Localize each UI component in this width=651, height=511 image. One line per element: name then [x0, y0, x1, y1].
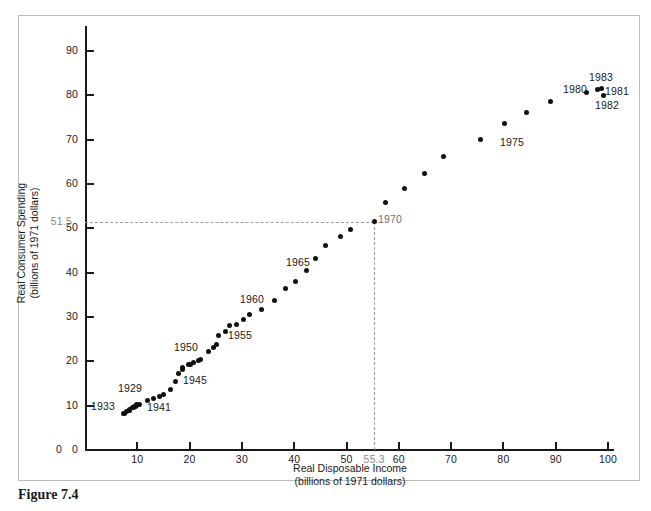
y-axis-title-main: Real Consumer Spending — [15, 143, 28, 343]
data-point — [383, 200, 388, 205]
x-tick-label-10: 10 — [117, 453, 157, 465]
data-point — [214, 342, 219, 347]
data-point — [198, 357, 203, 362]
x-tick-50 — [346, 442, 348, 449]
data-point — [259, 307, 264, 312]
annotation-1975: 1975 — [500, 136, 524, 148]
data-point — [234, 322, 239, 327]
annotation-1950: 1950 — [174, 341, 198, 353]
annotation-1983: 1983 — [589, 71, 613, 83]
y-tick-label-10: 10 — [38, 399, 78, 411]
x-tick-label-0: 0 — [39, 443, 79, 455]
y-tick-0 — [87, 449, 94, 451]
annotation-1933: 1933 — [91, 400, 115, 412]
data-point — [478, 137, 483, 142]
y-tick-label-70: 70 — [38, 133, 78, 145]
guide-line-vertical — [374, 222, 375, 450]
annotation-1945: 1945 — [183, 374, 207, 386]
y-tick-label-20: 20 — [38, 354, 78, 366]
data-point — [548, 99, 553, 104]
x-tick-40 — [293, 442, 295, 449]
y-tick-label-90: 90 — [38, 44, 78, 56]
data-point — [372, 219, 377, 224]
data-point — [502, 121, 507, 126]
y-tick-20 — [87, 360, 94, 362]
y-axis-title-sub: (billions of 1971 dollars) — [28, 143, 41, 343]
data-point — [422, 171, 427, 176]
data-point — [241, 317, 246, 322]
y-axis-title: Real Consumer Spending (billions of 1971… — [15, 143, 41, 343]
x-tick-30 — [241, 442, 243, 449]
scatter-plot: 010203040506070809051.5 0102030405060708… — [0, 0, 651, 511]
data-point — [313, 256, 318, 261]
data-point — [599, 86, 604, 91]
x-tick-60 — [398, 442, 400, 449]
y-tick-label-30: 30 — [38, 310, 78, 322]
x-tick-10 — [136, 442, 138, 449]
data-point — [524, 110, 529, 115]
y-tick-label-40: 40 — [38, 266, 78, 278]
data-point — [323, 243, 328, 248]
annotation-1929: 1929 — [118, 382, 142, 394]
y-tick-label-80: 80 — [38, 88, 78, 100]
annotation-1941: 1941 — [147, 401, 171, 413]
x-axis-title: Real Disposable Income (billions of 1971… — [180, 462, 520, 488]
y-tick-90 — [87, 50, 94, 52]
guide-line-horizontal — [85, 222, 374, 223]
data-point — [272, 298, 277, 303]
annotation-1982: 1982 — [595, 99, 619, 111]
figure-caption: Figure 7.4 — [18, 487, 78, 503]
y-tick-label-60: 60 — [38, 177, 78, 189]
data-point — [293, 279, 298, 284]
x-tick-100 — [607, 442, 609, 449]
data-point — [441, 154, 446, 159]
y-tick-80 — [87, 94, 94, 96]
y-tick-30 — [87, 316, 94, 318]
data-point — [247, 312, 252, 317]
data-point — [206, 349, 211, 354]
x-axis-line — [85, 449, 614, 451]
data-point — [216, 333, 221, 338]
y-axis-line — [85, 26, 87, 451]
annotation-1980: 1980 — [563, 83, 587, 95]
y-tick-40 — [87, 272, 94, 274]
x-axis-title-sub: (billions of 1971 dollars) — [180, 475, 520, 488]
x-tick-80 — [502, 442, 504, 449]
data-point — [227, 323, 232, 328]
x-tick-90 — [555, 442, 557, 449]
y-tick-60 — [87, 183, 94, 185]
annotation-1955: 1955 — [228, 329, 252, 341]
x-tick-label-100: 100 — [588, 453, 628, 465]
annotation-1965: 1965 — [286, 256, 310, 268]
x-tick-20 — [189, 442, 191, 449]
data-point — [402, 186, 407, 191]
x-axis-title-main: Real Disposable Income — [180, 462, 520, 475]
data-point — [161, 392, 166, 397]
x-tick-label-90: 90 — [536, 453, 576, 465]
x-tick-70 — [450, 442, 452, 449]
data-point — [338, 234, 343, 239]
data-point — [137, 402, 142, 407]
data-point — [283, 286, 288, 291]
annotation-1960: 1960 — [240, 293, 264, 305]
data-point — [304, 268, 309, 273]
data-point — [168, 387, 173, 392]
data-point — [173, 379, 178, 384]
y-tick-50 — [87, 227, 94, 229]
y-tick-70 — [87, 139, 94, 141]
data-point — [348, 227, 353, 232]
annotation-1970: 1970 — [378, 213, 402, 225]
annotation-1981: 1981 — [605, 85, 629, 97]
